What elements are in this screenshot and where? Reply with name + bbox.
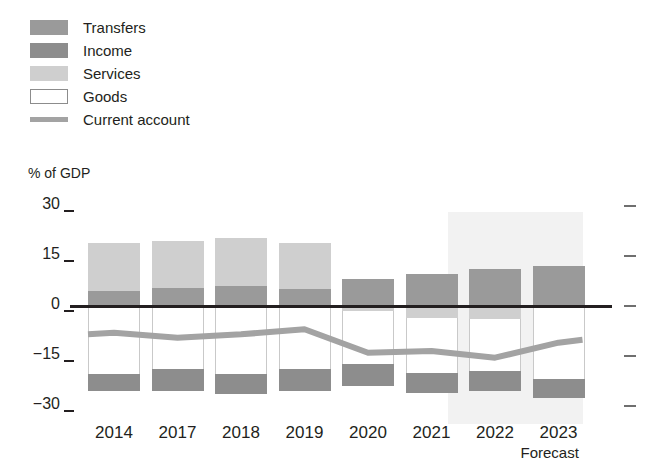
x-axis-tick-label-2021: 2021 xyxy=(397,423,467,443)
x-axis-tick-label-2022: 2022 xyxy=(460,423,530,443)
y-axis-tick--30 xyxy=(64,410,74,412)
y-axis-tick-label-0: 0 xyxy=(18,295,60,313)
y-axis-tick-right-30 xyxy=(624,205,636,207)
y-axis-tick--15 xyxy=(64,360,74,362)
current-account-line xyxy=(0,0,654,461)
y-axis-tick-right-15 xyxy=(624,255,636,257)
x-axis-tick-label-2014: 2014 xyxy=(79,423,149,443)
x-axis-tick-label-2018: 2018 xyxy=(206,423,276,443)
y-axis-tick-30 xyxy=(64,210,74,212)
x-axis-tick-label-2023: 2023 xyxy=(524,423,594,443)
y-axis-tick-right-0 xyxy=(624,305,636,307)
x-axis-tick-label-2017: 2017 xyxy=(143,423,213,443)
x-axis-tick-label-2019: 2019 xyxy=(270,423,340,443)
y-axis-tick-right--30 xyxy=(624,405,636,407)
y-axis-tick-label-30: 30 xyxy=(18,195,60,213)
x-axis-tick-label-2020: 2020 xyxy=(333,423,403,443)
chart-plot-area: 30150−15−30 2014201720182019202020212022… xyxy=(0,0,654,461)
y-axis-tick-15 xyxy=(64,260,74,262)
y-axis-tick-label--15: −15 xyxy=(18,345,60,363)
forecast-label: Forecast xyxy=(521,444,579,461)
y-axis-tick-right--15 xyxy=(624,355,636,357)
y-axis-tick-label-15: 15 xyxy=(18,245,60,263)
y-axis-tick-label--30: −30 xyxy=(18,395,60,413)
y-axis-tick-0 xyxy=(64,310,74,312)
